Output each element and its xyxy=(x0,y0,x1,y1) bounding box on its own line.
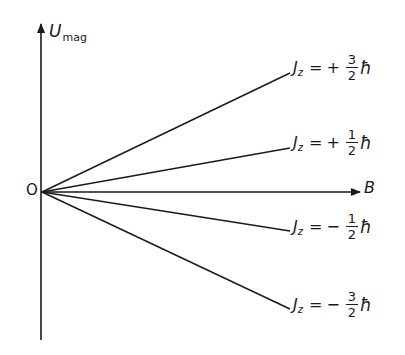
fraction: 32 xyxy=(346,53,358,82)
y-axis-label: Umag xyxy=(49,23,87,40)
y-axis-label-main: U xyxy=(49,21,61,41)
hbar-symbol: ħ xyxy=(360,295,372,315)
level-line-plus-1-2 xyxy=(42,148,290,192)
level-label-plus-1-2: Jz = + 12 ħ xyxy=(293,128,372,157)
fraction: 12 xyxy=(346,128,358,157)
fraction: 12 xyxy=(346,212,358,241)
level-line-plus-3-2 xyxy=(42,73,290,192)
hbar-symbol: ħ xyxy=(360,217,372,237)
origin-label: O xyxy=(26,183,38,198)
level-line-minus-3-2 xyxy=(42,192,290,309)
level-label-plus-3-2: Jz = + 32 ħ xyxy=(293,53,372,82)
level-line-minus-1-2 xyxy=(42,192,290,231)
y-axis-label-sub: mag xyxy=(62,31,86,44)
x-axis-label: B xyxy=(364,180,375,196)
hbar-symbol: ħ xyxy=(360,133,372,153)
level-label-minus-3-2: Jz = − 32 ħ xyxy=(293,290,372,319)
hbar-symbol: ħ xyxy=(360,58,372,78)
fraction: 32 xyxy=(346,290,358,319)
level-label-minus-1-2: Jz = − 12 ħ xyxy=(293,212,372,241)
